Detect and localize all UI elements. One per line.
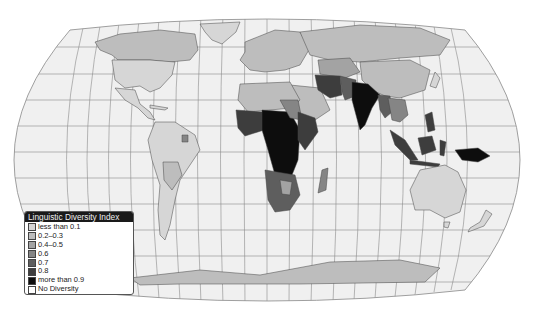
legend-swatch xyxy=(28,223,36,231)
legend-swatch xyxy=(28,241,36,249)
legend-label: No Diversity xyxy=(38,285,78,294)
legend-item: No Diversity xyxy=(28,285,130,294)
legend-swatch xyxy=(28,232,36,240)
legend-swatch xyxy=(28,268,36,276)
legend-swatch xyxy=(28,277,36,285)
region-botswana xyxy=(280,180,292,195)
legend-swatch xyxy=(28,259,36,267)
legend-swatch xyxy=(28,250,36,258)
region-guiana xyxy=(182,135,188,142)
legend-swatch xyxy=(28,286,36,294)
map-legend: Linguistic Diversity Index less than 0.1… xyxy=(24,211,134,295)
legend-title: Linguistic Diversity Index xyxy=(25,212,133,222)
region-australia xyxy=(410,165,466,218)
legend-list: less than 0.1 0.2–0.3 0.4–0.5 0.6 0.7 0.… xyxy=(25,222,133,295)
